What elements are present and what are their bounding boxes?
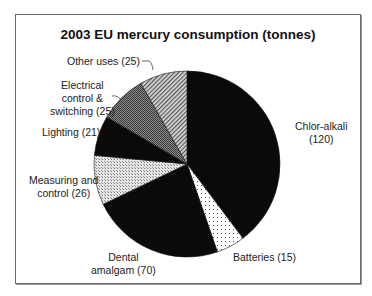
label-batteries: Batteries (15) [233, 251, 296, 264]
label-line: Measuring and [29, 174, 98, 187]
label-line: control (26) [29, 187, 98, 200]
label-lighting: Lighting (21) [42, 126, 100, 139]
label-line: Electrical [50, 79, 115, 92]
pie-chart [0, 0, 372, 296]
label-line: Chlor-alkali [295, 120, 348, 133]
label-line: (120) [295, 133, 348, 146]
leader-line-other [142, 61, 153, 70]
label-line: Dental [91, 251, 156, 264]
label-measuring: Measuring and control (26) [29, 174, 98, 200]
label-line: amalgam (70) [91, 264, 156, 277]
label-electrical: Electrical control & switching (25) [50, 79, 115, 118]
label-dental: Dental amalgam (70) [91, 251, 156, 277]
label-other-uses: Other uses (25) [67, 55, 140, 68]
label-line: control & [50, 92, 115, 105]
label-line: switching (25) [50, 105, 115, 118]
label-chlor-alkali: Chlor-alkali (120) [295, 120, 348, 146]
